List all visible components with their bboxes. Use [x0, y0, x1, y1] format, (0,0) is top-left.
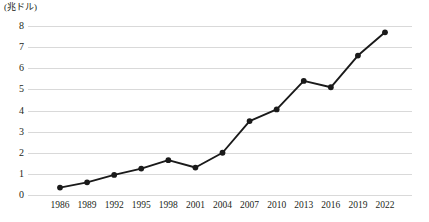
data-point	[355, 53, 361, 59]
data-point	[111, 172, 117, 178]
y-axis-tick-label: 5	[19, 84, 24, 94]
x-axis-tick-label: 2010	[267, 199, 286, 211]
data-point	[247, 118, 253, 124]
data-point	[382, 29, 388, 35]
y-axis-tick-label: 1	[19, 169, 24, 179]
y-axis-tick-label: 3	[19, 127, 24, 137]
y-axis-unit-label: (兆ドル)	[4, 2, 37, 13]
y-axis-tick-label: 4	[19, 106, 24, 116]
y-axis-tick-labels: 012345678	[0, 26, 24, 195]
x-axis-tick-label: 1998	[159, 199, 178, 211]
data-point	[84, 179, 90, 185]
x-axis-tick-label: 2016	[321, 199, 340, 211]
data-point	[57, 185, 63, 191]
x-axis-tick-label: 1995	[132, 199, 151, 211]
y-axis-tick-label: 7	[19, 42, 24, 52]
data-point	[274, 107, 280, 113]
data-point	[138, 166, 144, 172]
data-point	[328, 84, 334, 90]
x-axis-tick-label: 2019	[348, 199, 367, 211]
x-axis-tick-label: 2004	[213, 199, 232, 211]
data-point	[165, 157, 171, 163]
data-point	[193, 165, 199, 171]
x-axis-tick-label: 1986	[51, 199, 70, 211]
x-axis-tick-label: 2013	[294, 199, 313, 211]
y-axis-tick-label: 8	[19, 21, 24, 31]
x-axis-tick-label: 2022	[376, 199, 395, 211]
x-axis-tick-label: 2007	[240, 199, 259, 211]
x-axis-tick-labels: 1986198919921995199820012004200720102013…	[28, 199, 412, 215]
y-axis-tick-label: 2	[19, 148, 24, 158]
line-chart: (兆ドル) 012345678 198619891992199519982001…	[0, 0, 429, 222]
x-axis-tick-label: 2001	[186, 199, 205, 211]
y-axis-tick-label: 0	[19, 190, 24, 200]
series-markers	[57, 29, 388, 190]
data-point	[220, 150, 226, 156]
data-point	[301, 78, 307, 84]
series-polyline	[60, 32, 385, 187]
plot-area	[28, 26, 412, 195]
x-axis-tick-label: 1992	[105, 199, 124, 211]
y-axis-tick-label: 6	[19, 63, 24, 73]
data-series-line	[28, 26, 412, 195]
gridline	[28, 195, 412, 196]
x-axis-tick-label: 1989	[78, 199, 97, 211]
